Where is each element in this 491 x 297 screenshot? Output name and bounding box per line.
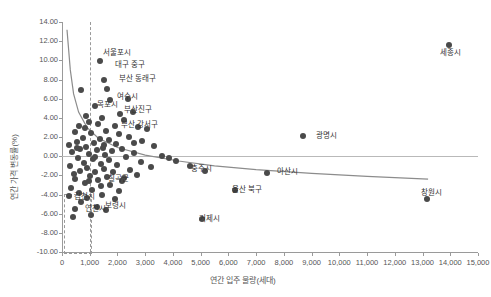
point-label: 대구 중구 — [115, 58, 145, 69]
data-point — [126, 134, 132, 140]
point-label: 칠곡군 — [108, 172, 129, 183]
point-label: 아산시 — [277, 165, 298, 176]
data-point — [66, 142, 72, 148]
point-label: 서울포시 — [103, 46, 131, 57]
data-point — [97, 136, 103, 142]
point-label: 연천시 — [85, 202, 106, 213]
data-point — [106, 137, 112, 143]
scatter-chart: 연간 가격 변동률(%) 연간 입주 물량(세대) 14.0012.0010.0… — [0, 0, 491, 297]
data-point — [101, 166, 107, 172]
data-point — [148, 164, 154, 170]
data-point — [424, 196, 430, 202]
point-label: 창원시 — [421, 186, 442, 197]
data-point — [70, 214, 76, 220]
data-point — [83, 144, 89, 150]
point-label: 부산진구 — [124, 103, 152, 114]
data-point — [75, 155, 81, 161]
data-point — [92, 154, 98, 160]
data-point — [116, 188, 122, 194]
point-label: 목포시 — [97, 98, 118, 109]
data-point — [104, 86, 110, 92]
data-point — [159, 153, 165, 159]
data-point — [138, 159, 144, 165]
data-point — [80, 135, 86, 141]
point-label: 여수시 — [117, 90, 138, 101]
point-label: 광명시 — [316, 129, 337, 140]
data-point — [95, 121, 101, 127]
data-point — [92, 169, 98, 175]
point-label: 울산 북구 — [232, 183, 262, 194]
data-point — [151, 143, 157, 149]
point-label: 세종시 — [440, 46, 461, 57]
data-point — [173, 158, 179, 164]
data-point — [113, 141, 119, 147]
data-point — [91, 140, 97, 146]
data-point — [99, 115, 105, 121]
data-point — [116, 131, 122, 137]
data-point — [131, 140, 137, 146]
point-label: 보령시 — [105, 199, 126, 210]
data-point — [112, 123, 118, 129]
data-point — [123, 154, 129, 160]
data-point — [300, 133, 306, 139]
point-label: 충주시 — [191, 162, 212, 173]
data-point — [72, 129, 78, 135]
data-point — [98, 183, 104, 189]
data-point — [72, 206, 78, 212]
data-point — [74, 145, 80, 151]
data-point — [86, 119, 92, 125]
point-label: 부산 강서구 — [121, 118, 158, 129]
data-point — [83, 113, 89, 119]
data-point — [131, 150, 137, 156]
data-point — [101, 77, 107, 83]
data-point — [101, 142, 107, 148]
data-point — [106, 157, 112, 163]
data-point — [86, 178, 92, 184]
data-point — [84, 165, 90, 171]
point-label: 김천시 — [74, 190, 95, 201]
point-label: 거제시 — [199, 212, 220, 223]
data-point — [166, 155, 172, 161]
data-point — [74, 139, 80, 145]
point-label: 부산 동래구 — [119, 72, 156, 83]
data-point — [77, 168, 83, 174]
